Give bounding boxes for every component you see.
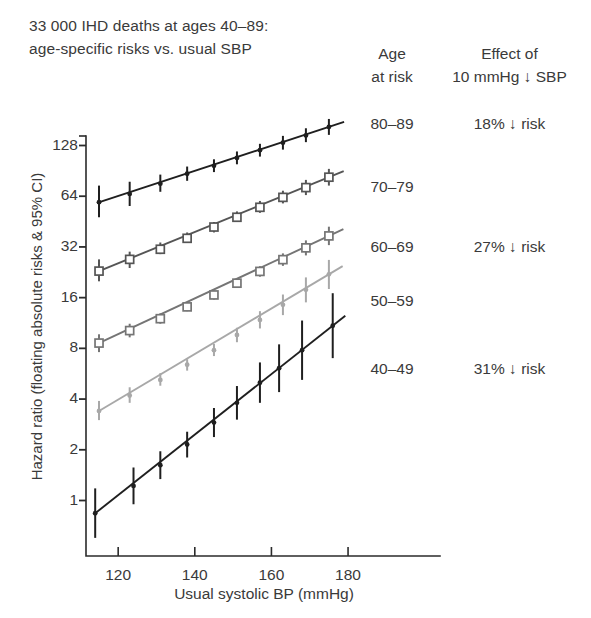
x-tick-label-180: 180 <box>318 566 378 584</box>
data-point-marker <box>235 400 240 405</box>
y-tick-label-128: 128 <box>32 136 78 154</box>
data-point-marker <box>127 393 132 398</box>
data-point-marker <box>304 133 309 138</box>
data-point-marker <box>233 213 241 221</box>
x-tick-label-140: 140 <box>165 566 225 584</box>
data-point-marker <box>97 409 102 414</box>
data-point-marker <box>212 348 217 353</box>
data-point-marker <box>97 200 102 205</box>
data-point-marker <box>279 193 287 201</box>
data-point-marker <box>185 442 190 447</box>
data-point-marker <box>185 171 190 176</box>
data-point-marker <box>302 184 310 192</box>
axis-lines <box>86 136 440 556</box>
trend-line <box>94 316 346 515</box>
data-point-marker <box>95 339 103 347</box>
x-tick-labels: 120140160180 <box>0 556 591 586</box>
data-point-marker <box>256 267 264 275</box>
plot-area <box>0 0 591 618</box>
data-point-marker <box>158 377 163 382</box>
data-point-marker <box>158 463 163 468</box>
data-point-marker <box>281 302 286 307</box>
data-point-marker <box>235 333 240 338</box>
data-point-marker <box>304 287 309 292</box>
data-point-marker <box>212 163 217 168</box>
chart-figure: 33 000 IHD deaths at ages 40–89: age-spe… <box>0 0 591 618</box>
x-tick-label-120: 120 <box>88 566 148 584</box>
data-point-marker <box>95 267 103 275</box>
data-point-marker <box>185 362 190 367</box>
data-point-marker <box>277 366 282 371</box>
data-point-marker <box>258 148 263 153</box>
data-point-marker <box>93 511 98 516</box>
y-axis-label: Hazard ratio (floating absolute risks & … <box>28 162 45 492</box>
data-point-marker <box>156 315 164 323</box>
data-point-marker <box>279 256 287 264</box>
data-point-marker <box>158 181 163 186</box>
data-point-marker <box>256 203 264 211</box>
data-point-marker <box>235 156 240 161</box>
series-50-59 <box>97 260 343 420</box>
data-point-marker <box>183 303 191 311</box>
data-point-marker <box>326 272 331 277</box>
x-axis-label: Usual systolic BP (mmHg) <box>86 585 442 603</box>
data-point-marker <box>233 279 241 287</box>
data-point-marker <box>183 234 191 242</box>
series-80-89 <box>97 119 344 217</box>
data-point-marker <box>326 125 331 130</box>
data-point-marker <box>126 255 134 263</box>
data-point-marker <box>302 244 310 252</box>
data-point-marker <box>325 232 333 240</box>
series-70-79 <box>95 169 344 281</box>
data-point-marker <box>127 192 132 197</box>
data-point-marker <box>281 140 286 145</box>
data-point-marker <box>258 380 263 385</box>
data-point-marker <box>330 323 335 328</box>
data-point-marker <box>126 327 134 335</box>
data-point-marker <box>156 245 164 253</box>
data-point-marker <box>325 173 333 181</box>
data-point-marker <box>131 484 136 489</box>
data-point-marker <box>212 420 217 425</box>
data-point-marker <box>258 318 263 323</box>
data-point-marker <box>210 223 218 231</box>
data-point-marker <box>210 291 218 299</box>
x-tick-label-160: 160 <box>241 566 301 584</box>
y-tick-label-1: 1 <box>32 491 78 509</box>
data-point-marker <box>300 348 305 353</box>
y-tick-labels: 1286432168421 <box>12 0 78 618</box>
